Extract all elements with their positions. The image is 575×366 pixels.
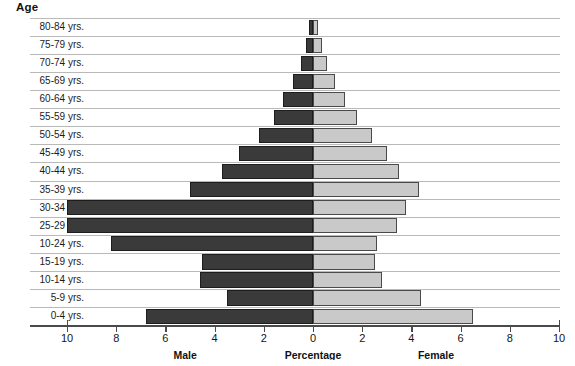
x-axis-tick-label: 6 bbox=[162, 332, 168, 344]
age-band-label: 15-19 yrs. bbox=[0, 253, 84, 271]
x-axis-tick bbox=[313, 327, 314, 332]
age-band-label: 45-49 yrs. bbox=[0, 144, 84, 162]
age-band-label: 55-59 yrs. bbox=[0, 108, 84, 126]
female-bar bbox=[313, 128, 372, 143]
male-bar bbox=[67, 200, 313, 215]
age-band-label: 75-79 yrs. bbox=[0, 36, 84, 54]
x-axis-tick-label: 10 bbox=[61, 332, 73, 344]
age-band-label: 35-39 yrs. bbox=[0, 181, 84, 199]
x-axis-tick bbox=[411, 327, 412, 332]
x-axis-end-cap bbox=[67, 320, 68, 327]
x-axis-line bbox=[30, 325, 560, 327]
x-axis-tick-label: 2 bbox=[359, 332, 365, 344]
x-axis-tick-label: 10 bbox=[553, 332, 565, 344]
x-axis-tick bbox=[461, 327, 462, 332]
female-bar bbox=[313, 254, 375, 269]
pyramid-row: 15-19 yrs. bbox=[0, 253, 575, 271]
male-bar bbox=[239, 146, 313, 161]
pyramid-row: 60-64 yrs. bbox=[0, 90, 575, 108]
age-band-label: 65-69 yrs. bbox=[0, 72, 84, 90]
x-axis-tick bbox=[165, 327, 166, 332]
age-band-label: 60-64 yrs. bbox=[0, 90, 84, 108]
female-bar bbox=[313, 164, 399, 179]
plot-area: 80-84 yrs.75-79 yrs.70-74 yrs.65-69 yrs.… bbox=[0, 18, 575, 325]
female-bar bbox=[313, 290, 421, 305]
male-bar bbox=[222, 164, 313, 179]
x-axis-tick bbox=[116, 327, 117, 332]
age-band-label: 10-24 yrs. bbox=[0, 235, 84, 253]
pyramid-row: 10-14 yrs. bbox=[0, 271, 575, 289]
male-bar bbox=[283, 92, 313, 107]
x-axis-tick bbox=[510, 327, 511, 332]
male-bar bbox=[67, 218, 313, 233]
x-axis-tick bbox=[215, 327, 216, 332]
female-bar bbox=[313, 272, 382, 287]
pyramid-row: 5-9 yrs. bbox=[0, 289, 575, 307]
pyramid-row: 50-54 yrs. bbox=[0, 126, 575, 144]
age-band-label: 80-84 yrs. bbox=[0, 18, 84, 36]
age-band-label: 0-4 yrs. bbox=[0, 307, 84, 325]
male-bar bbox=[146, 309, 313, 324]
pyramid-row: 25-29 yrs. bbox=[0, 217, 575, 235]
pyramid-row: 45-49 yrs. bbox=[0, 144, 575, 162]
x-axis-tick-label: 0 bbox=[310, 332, 316, 344]
pyramid-row: 35-39 yrs. bbox=[0, 181, 575, 199]
pyramid-row: 10-24 yrs. bbox=[0, 235, 575, 253]
male-bar bbox=[200, 272, 313, 287]
female-bar bbox=[313, 56, 327, 71]
pyramid-row: 40-44 yrs. bbox=[0, 162, 575, 180]
gridline bbox=[30, 54, 560, 55]
age-band-label: 10-14 yrs. bbox=[0, 271, 84, 289]
x-axis-tick-label: 4 bbox=[408, 332, 414, 344]
male-bar bbox=[306, 38, 313, 53]
age-band-label: 70-74 yrs. bbox=[0, 54, 84, 72]
pyramid-row: 65-69 yrs. bbox=[0, 72, 575, 90]
pyramid-row: 80-84 yrs. bbox=[0, 18, 575, 36]
x-axis-tick bbox=[264, 327, 265, 332]
female-bar bbox=[313, 74, 335, 89]
x-axis-tick-label: 8 bbox=[113, 332, 119, 344]
gridline bbox=[30, 36, 560, 37]
x-axis-end-cap bbox=[559, 320, 560, 327]
x-axis-tick bbox=[67, 327, 68, 332]
male-bar bbox=[301, 56, 313, 71]
female-bar bbox=[313, 146, 387, 161]
female-bar bbox=[313, 92, 345, 107]
age-band-label: 40-44 yrs. bbox=[0, 162, 84, 180]
x-axis-tick bbox=[559, 327, 560, 332]
female-bar bbox=[313, 38, 322, 53]
x-axis-tick-label: 4 bbox=[212, 332, 218, 344]
x-axis-tick-label: 8 bbox=[507, 332, 513, 344]
male-bar bbox=[190, 182, 313, 197]
gridline bbox=[30, 18, 560, 19]
pyramid-row: 55-59 yrs. bbox=[0, 108, 575, 126]
male-bar bbox=[111, 236, 313, 251]
male-bar bbox=[202, 254, 313, 269]
scan-edge-band bbox=[0, 360, 575, 366]
male-bar bbox=[274, 110, 313, 125]
female-bar bbox=[313, 309, 473, 324]
pyramid-row: 30-34 yrs. bbox=[0, 199, 575, 217]
pyramid-row: 70-74 yrs. bbox=[0, 54, 575, 72]
female-bar bbox=[313, 236, 377, 251]
age-band-label: 50-54 yrs. bbox=[0, 126, 84, 144]
female-bar bbox=[313, 182, 419, 197]
male-bar bbox=[227, 290, 313, 305]
population-pyramid-chart: Age 80-84 yrs.75-79 yrs.70-74 yrs.65-69 … bbox=[0, 0, 575, 366]
female-bar bbox=[313, 110, 357, 125]
pyramid-row: 0-4 yrs. bbox=[0, 307, 575, 325]
female-bar bbox=[313, 20, 318, 35]
male-bar bbox=[293, 74, 313, 89]
male-bar bbox=[259, 128, 313, 143]
pyramid-row: 75-79 yrs. bbox=[0, 36, 575, 54]
age-band-label: 5-9 yrs. bbox=[0, 289, 84, 307]
x-axis-tick bbox=[362, 327, 363, 332]
female-bar bbox=[313, 218, 397, 233]
age-axis-title: Age bbox=[16, 1, 38, 13]
female-bar bbox=[313, 200, 406, 215]
x-axis-tick-label: 6 bbox=[458, 332, 464, 344]
x-axis-tick-label: 2 bbox=[261, 332, 267, 344]
